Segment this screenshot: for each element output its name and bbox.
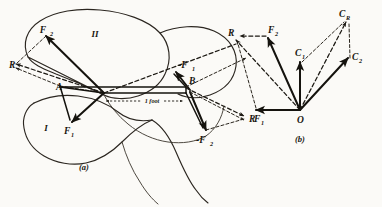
label-F1-a-base: F [63,126,71,136]
label-b-F1-sub: 1 [261,119,264,126]
label-b-R: R [227,28,234,38]
label-neg-F2-sub: 2 [209,140,213,147]
label-F1-a-sub: 1 [71,131,74,138]
label-region-one: I [43,123,48,133]
label-neg-F2-base: -F [196,135,206,145]
label-F2-a-sub: 2 [49,30,53,37]
label-b-C1-base: C [295,48,302,58]
label-b-C2-sub: 2 [358,57,362,64]
label-F2-a-base: F [39,25,47,35]
label-b-F2-sub: 2 [274,30,278,37]
label-b-CR-base: C [339,9,346,19]
label-b-F2-base: F [267,25,275,35]
label-neg-F1-base: -F [178,60,188,70]
dimension-one-foot-label: 1 foot [145,97,160,104]
label-neg-F1-sub: 1 [192,65,195,72]
caption-b: (b) [295,134,305,144]
figure-container: F 2 II I R A F 1 1 foot -F 1 B -F 2 R (a… [0,0,382,207]
figure-svg: F 2 II I R A F 1 1 foot -F 1 B -F 2 R (a… [0,0,382,207]
label-b-C2-base: C [352,52,359,62]
label-region-two: II [90,29,99,39]
label-b-CR-sub: R [345,14,350,21]
label-one-foot: 1 foot [145,97,160,104]
label-point-B: B [188,76,195,86]
caption-a: (a) [79,162,89,172]
label-b-origin: O [297,115,304,125]
label-point-A: A [55,82,62,92]
label-b-F1-base: F [253,114,261,124]
label-b-C1-sub: 1 [302,53,305,60]
label-R-upper: R [8,60,15,70]
